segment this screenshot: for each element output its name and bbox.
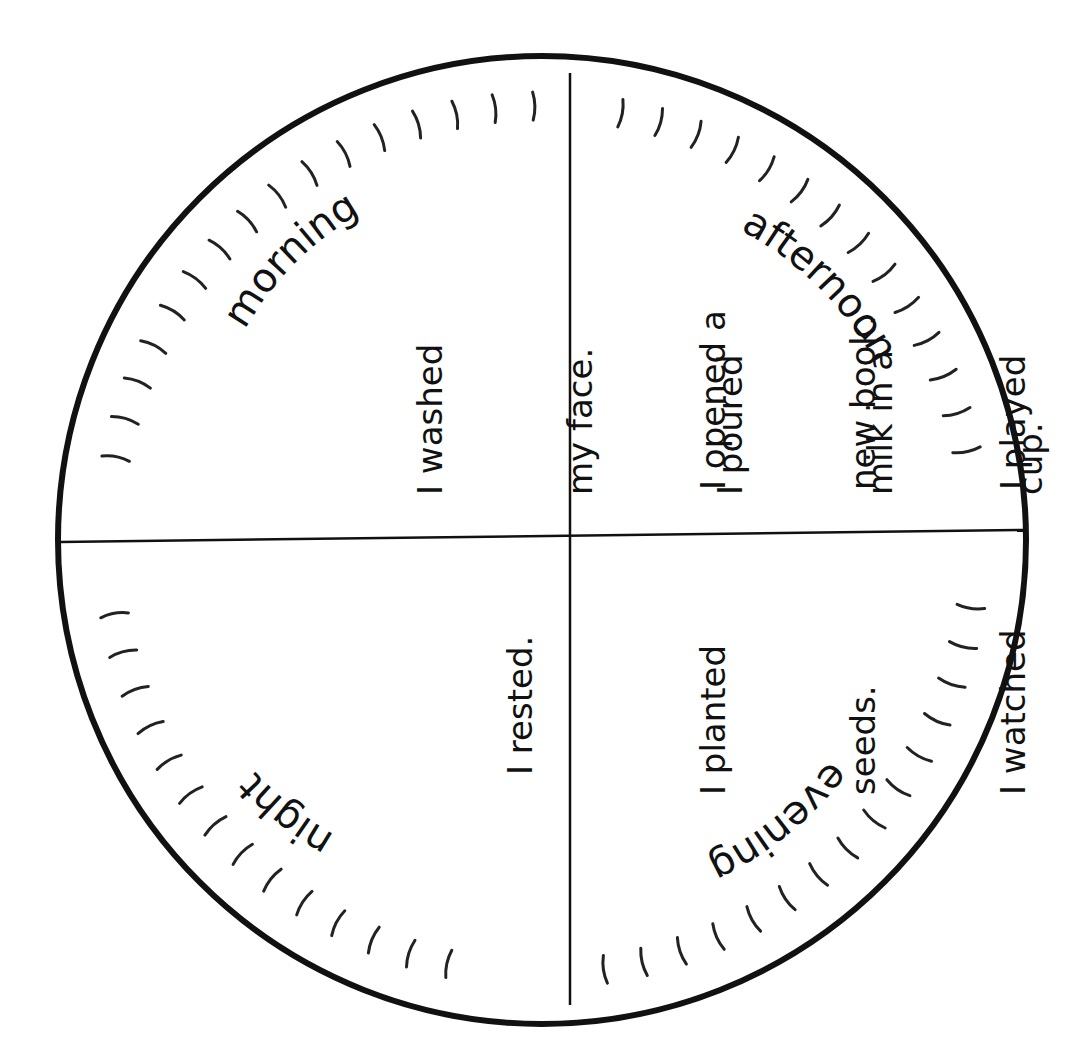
tick-mark (492, 95, 496, 123)
tick-mark (374, 125, 385, 151)
text-line: I washed (405, 344, 455, 495)
tick-mark (180, 787, 203, 803)
tick-mark (446, 950, 452, 977)
tick-mark (302, 162, 317, 186)
tick-mark (413, 111, 421, 138)
tick-mark (269, 185, 286, 207)
tick-mark (141, 341, 166, 354)
tick-mark (101, 613, 129, 618)
text-line: seeds. (838, 629, 888, 795)
tick-mark (873, 264, 895, 281)
tick-mark (618, 99, 623, 127)
tick-mark (791, 179, 808, 202)
tick-mark (122, 686, 148, 696)
tick-mark (297, 891, 312, 915)
tick-mark (760, 157, 775, 181)
rim-tick-marks (101, 92, 985, 983)
tick-mark (677, 938, 686, 965)
text-line: I watched (988, 629, 1038, 795)
routine-wheel: morning afternoon evening night (0, 0, 1084, 1057)
text-line: I planted (688, 629, 738, 795)
tick-mark (102, 456, 129, 461)
tick-mark (157, 755, 181, 769)
tick-mark (332, 911, 345, 936)
tick-mark (641, 948, 648, 975)
tick-mark (810, 864, 828, 886)
quadrant-text-afternoon: I opened a new book. I played with Lisa. (588, 310, 1084, 490)
tick-mark (138, 722, 163, 734)
tick-mark (111, 417, 138, 425)
quadrant-text-evening: I planted seeds. I watched TV. (588, 629, 1084, 795)
text-line: I opened a (688, 310, 738, 490)
tick-mark (209, 240, 230, 259)
tick-mark (726, 137, 738, 162)
tick-mark (848, 233, 868, 252)
tick-mark (533, 92, 535, 120)
tick-mark (160, 305, 184, 320)
quadrant-text-night: I rested. (395, 636, 595, 775)
tick-mark (603, 956, 608, 984)
tick-mark (337, 142, 350, 167)
tick-mark (452, 101, 458, 128)
tick-mark (264, 869, 281, 891)
tick-mark (691, 121, 701, 147)
tick-mark (238, 211, 257, 232)
tick-mark (655, 109, 663, 136)
tick-mark (821, 205, 840, 226)
tick-mark (110, 650, 137, 657)
tick-mark (957, 604, 985, 609)
tick-mark (747, 907, 761, 932)
tick-mark (124, 378, 150, 388)
tick-mark (233, 844, 252, 864)
tick-mark (838, 838, 858, 858)
horizontal-divider (60, 530, 1025, 542)
tick-mark (183, 272, 205, 289)
tick-mark (864, 810, 886, 828)
tick-mark (368, 927, 379, 953)
text-line: new book. (838, 310, 888, 490)
quadrant-label-morning: morning (213, 182, 365, 335)
tick-mark (779, 887, 795, 910)
tick-mark (205, 817, 226, 836)
text-line: I played (988, 310, 1038, 490)
text-line: I rested. (495, 636, 545, 775)
tick-mark (407, 940, 416, 967)
tick-mark (713, 924, 724, 950)
